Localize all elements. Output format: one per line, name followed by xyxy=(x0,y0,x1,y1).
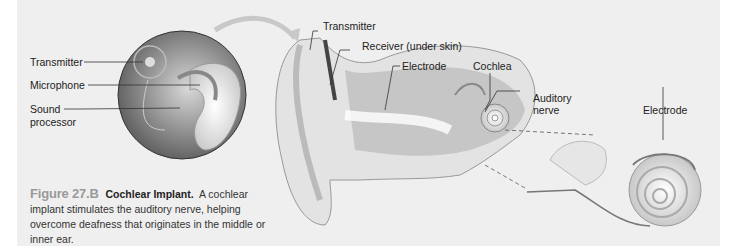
cochlea-detail-icon xyxy=(527,141,701,226)
label-inset-microphone: Microphone xyxy=(30,79,85,91)
figure-number: Figure 27.B xyxy=(30,186,99,201)
label-ear-transmitter: Transmitter xyxy=(323,20,376,32)
arrow-icon xyxy=(215,18,295,38)
label-inset-sound-processor-2: processor xyxy=(30,116,76,128)
label-ear-auditory-nerve-1: Auditory xyxy=(533,92,572,104)
label-ear-electrode: Electrode xyxy=(402,60,446,72)
label-inset-sound-processor-1: Sound xyxy=(30,103,60,115)
figure-title: Cochlear Implant. xyxy=(106,188,194,200)
label-ear-receiver: Receiver (under skin) xyxy=(362,40,462,52)
figure-caption: Figure 27.B Cochlear Implant. A cochlear… xyxy=(30,186,280,247)
label-cochlea-electrode: Electrode xyxy=(643,104,687,116)
label-ear-auditory-nerve-2: nerve xyxy=(533,104,559,116)
inset-head-icon xyxy=(118,31,246,159)
label-inset-transmitter: Transmitter xyxy=(30,56,83,68)
label-ear-cochlea: Cochlea xyxy=(473,60,512,72)
